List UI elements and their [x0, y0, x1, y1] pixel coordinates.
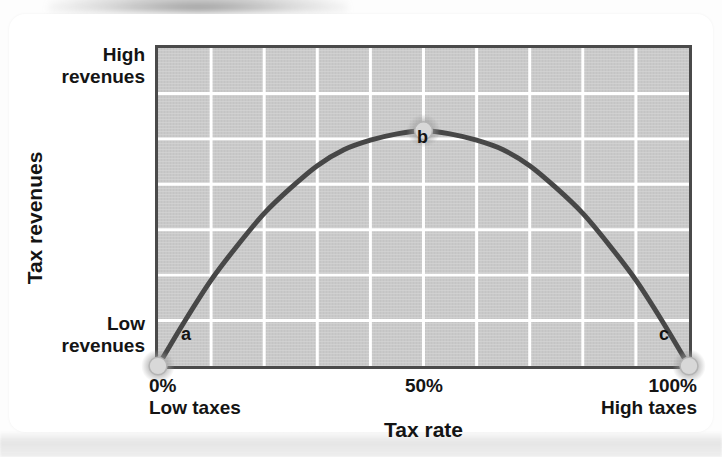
y-tick-high-revenues: High revenues [31, 44, 145, 87]
data-point-markers [141, 114, 706, 383]
y-axis-title: Tax revenues [23, 118, 47, 318]
data-point-label-a: a [181, 324, 191, 345]
x-tick-mid: 50% [364, 375, 484, 397]
data-point-label-c: c [659, 324, 669, 345]
laffer-curve-line [158, 131, 689, 366]
scan-artifact-top [48, 0, 348, 12]
data-point-label-b: b [417, 127, 428, 148]
x-tick-low-taxes: 0% Low taxes [149, 375, 241, 420]
figure-card: Tax revenues High revenues Low revenues … [9, 14, 713, 432]
x-tick-high-taxes: 100% High taxes [569, 375, 697, 420]
x-axis-title: Tax rate [155, 418, 692, 442]
plot-area [155, 45, 692, 369]
y-tick-low-revenues: Low revenues [31, 313, 145, 356]
laffer-curve-plot [158, 48, 689, 366]
data-point-marker-c [680, 357, 698, 375]
data-point-marker-a [149, 357, 167, 375]
